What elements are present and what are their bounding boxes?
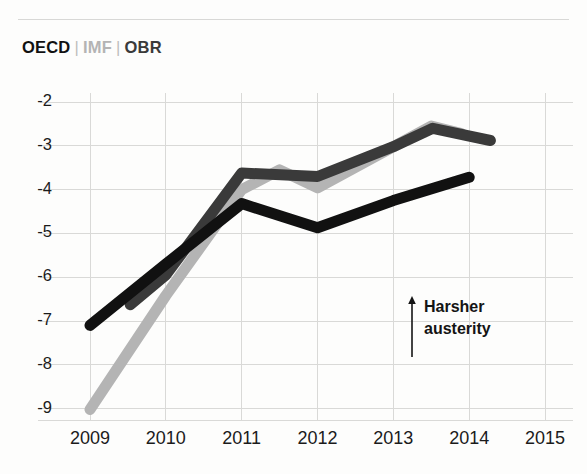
- y-tick-label: -2: [18, 91, 52, 110]
- x-tick-label: 2015: [510, 428, 580, 449]
- chart-series-group: [90, 126, 490, 409]
- y-tick-label: -5: [18, 222, 52, 241]
- y-tick-label: -7: [18, 310, 52, 329]
- y-tick-label: -4: [18, 179, 52, 198]
- up-arrow-icon: [408, 296, 416, 357]
- x-tick-label: 2014: [434, 428, 504, 449]
- x-tick-label: 2010: [131, 428, 201, 449]
- chart-figure: OECD|IMF|OBR -2-3-4-5-6-7-8-9 2009201020…: [0, 0, 587, 474]
- annotation-harsher-austerity: Harsher austerity: [424, 296, 491, 339]
- x-tick-label: 2013: [358, 428, 428, 449]
- x-tick-label: 2011: [207, 428, 277, 449]
- annotation-line-1: Harsher: [424, 296, 491, 318]
- y-tick-label: -3: [18, 135, 52, 154]
- y-tick-label: -8: [18, 354, 52, 373]
- y-tick-label: -9: [18, 398, 52, 417]
- x-tick-label: 2012: [283, 428, 353, 449]
- annotation-line-2: austerity: [424, 318, 491, 340]
- series-line-imf: [90, 126, 462, 409]
- x-tick-label: 2009: [55, 428, 125, 449]
- chart-plot-area: [0, 0, 587, 474]
- y-tick-label: -6: [18, 266, 52, 285]
